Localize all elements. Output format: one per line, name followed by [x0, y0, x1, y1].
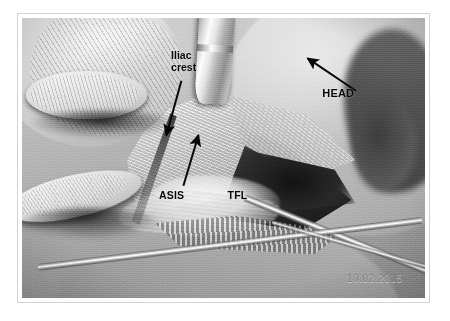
- figure-page: Iliac crest HEAD ASIS TFL 10.02.2015: [0, 0, 450, 321]
- label-head: HEAD: [322, 88, 354, 100]
- iliac-crest-arrow: [166, 81, 181, 136]
- asis-arrow: [183, 135, 198, 186]
- label-iliac-crest: Iliac crest: [171, 50, 196, 73]
- annotation-arrows: [22, 18, 425, 298]
- figure-frame: Iliac crest HEAD ASIS TFL 10.02.2015: [17, 13, 430, 303]
- label-tfl: TFL: [228, 190, 248, 201]
- label-asis: ASIS: [159, 190, 184, 201]
- camera-date-stamp: 10.02.2015: [347, 273, 403, 284]
- surgical-photograph: Iliac crest HEAD ASIS TFL 10.02.2015: [22, 18, 425, 298]
- annotation-overlay: Iliac crest HEAD ASIS TFL 10.02.2015: [22, 18, 425, 298]
- head-direction-arrow: [308, 58, 356, 90]
